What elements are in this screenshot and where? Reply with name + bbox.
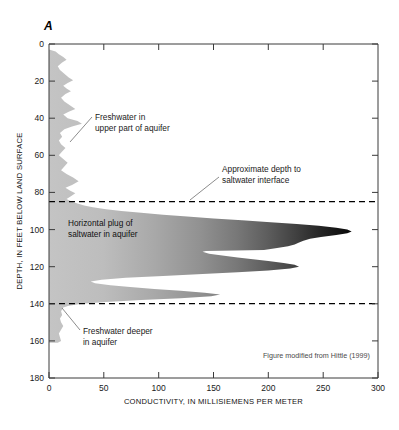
leader-line <box>190 177 219 200</box>
y-tick-label: 40 <box>35 113 45 123</box>
x-tick-label: 100 <box>152 383 166 393</box>
y-tick-label: 20 <box>35 76 45 86</box>
y-tick-label: 0 <box>39 39 44 49</box>
annotation-line-1: Approximate depth to <box>222 164 301 174</box>
annotation-line-2: saltwater interface <box>222 175 290 185</box>
y-axis-tick-labels: 0 20 40 60 80 100 120 140 160 180 <box>30 39 44 383</box>
x-axis-tick-labels: 0 50 100 150 200 250 300 <box>47 383 386 393</box>
conductivity-profile-area <box>49 50 352 343</box>
annotation-line-2: upper part of aquifer <box>95 123 170 133</box>
annotation-freshwater-upper: Freshwater in upper part of aquifer <box>70 112 170 142</box>
chart-svg: 0 20 40 60 80 100 120 140 160 180 <box>0 0 399 430</box>
conductivity-depth-figure: A <box>0 0 399 430</box>
source-note: Figure modified from Hittle (1999) <box>263 351 370 360</box>
annotation-line-1: Freshwater deeper <box>83 326 153 336</box>
y-tick-label: 60 <box>35 150 45 160</box>
panel-label: A <box>44 19 53 33</box>
annotation-freshwater-deeper: Freshwater deeper in aquifer <box>62 308 153 347</box>
y-tick-label: 100 <box>30 225 44 235</box>
annotation-line-2: saltwater in aquifer <box>68 229 138 239</box>
y-tick-label: 120 <box>30 262 44 272</box>
annotation-horizontal-plug: Horizontal plug of saltwater in aquifer <box>68 218 138 239</box>
annotation-line-2: in aquifer <box>83 337 117 347</box>
leader-line <box>62 308 80 330</box>
annotation-line-1: Freshwater in <box>95 112 146 122</box>
y-tick-label: 160 <box>30 336 44 346</box>
y-tick-label: 180 <box>30 373 44 383</box>
y-tick-label: 80 <box>35 187 45 197</box>
x-tick-label: 150 <box>206 383 220 393</box>
y-axis-title: DEPTH, IN FEET BELOW LAND SURFACE <box>15 132 24 289</box>
x-tick-label: 250 <box>316 383 330 393</box>
annotation-line-1: Horizontal plug of <box>68 218 133 228</box>
x-tick-label: 300 <box>371 383 385 393</box>
x-tick-label: 50 <box>99 383 109 393</box>
x-axis-title: CONDUCTIVITY, IN MILLISIEMENS PER METER <box>124 397 303 406</box>
x-tick-label: 200 <box>261 383 275 393</box>
y-tick-label: 140 <box>30 299 44 309</box>
annotation-saltwater-interface: Approximate depth to saltwater interface <box>190 164 301 200</box>
x-tick-label: 0 <box>47 383 52 393</box>
